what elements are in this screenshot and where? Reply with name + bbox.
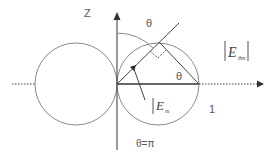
theta-pi-label: θ=π — [136, 138, 154, 149]
unit-one-label: 1 — [209, 103, 215, 115]
dipole-diagram: Z θ θ θ=π 1 E θm E m — [0, 0, 272, 167]
right-angle-marker — [150, 50, 166, 58]
z-axis-arrow-icon — [114, 12, 121, 20]
z-axis-label: Z — [84, 7, 91, 19]
e-m-symbol: E — [155, 98, 164, 113]
left-lobe-circle — [35, 43, 117, 125]
e-m-magnitude-label: E m — [153, 98, 170, 114]
right-arrow-icon — [257, 81, 264, 88]
e-m-subscript: m — [165, 108, 170, 114]
theta-top-label: θ — [146, 17, 152, 29]
theta-arc — [117, 33, 153, 48]
theta-inner-label: θ — [176, 70, 182, 82]
e-theta-symbol: E — [227, 45, 237, 60]
e-theta-magnitude-label: E θm — [225, 41, 248, 61]
e-theta-subscript: θm — [238, 55, 246, 61]
